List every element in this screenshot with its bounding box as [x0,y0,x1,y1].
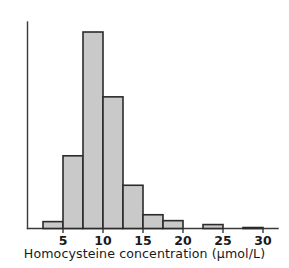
x-axis-label: Homocysteine concentration (µmol/L) [0,246,289,261]
histogram-bar [143,215,163,229]
histogram-bar [103,97,123,229]
histogram-plot: 51015202530 [0,0,289,268]
x-axis-ticks: 51015202530 [59,229,272,248]
bars-group [43,32,263,229]
histogram-bar [203,225,223,229]
histogram-bar [43,222,63,229]
histogram-bar [243,228,263,229]
histogram-bar [83,32,103,229]
histogram-bar [163,221,183,229]
histogram-figure: 51015202530 Homocysteine concentration (… [0,0,289,268]
histogram-bar [63,156,83,229]
histogram-bar [123,185,143,228]
